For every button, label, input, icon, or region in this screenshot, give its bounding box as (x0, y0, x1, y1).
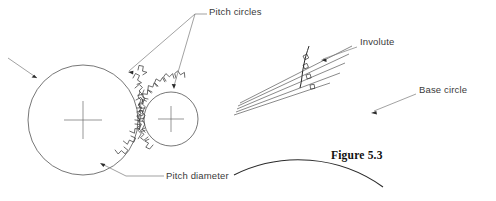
label-base-circle: Base circle (419, 84, 467, 95)
leader-pitch-circles-to-pinion (172, 14, 195, 89)
figure-caption: Figure 5.3 (331, 149, 383, 161)
leader-pitch-circles-to-gear (128, 14, 195, 75)
leader-pitch-diameter (100, 163, 164, 176)
gear-teeth-pinion (137, 71, 185, 149)
center-cross-gear (64, 101, 102, 139)
tangent-lines (234, 46, 352, 115)
involute-curve (300, 46, 309, 88)
leader-unlabeled-left (8, 58, 37, 78)
involute-construction (234, 46, 416, 187)
arrowhead-icon (172, 84, 176, 89)
leader-base-circle (371, 94, 416, 115)
center-cross-pinion (158, 106, 184, 132)
technical-drawing-canvas (0, 0, 496, 201)
arrowhead-icon (32, 75, 37, 78)
tangent-line-3 (237, 63, 345, 109)
label-pitch-diameter: Pitch diameter (166, 170, 229, 181)
perpendicular-mark-4 (310, 84, 315, 89)
figure-container: Pitch circles Pitch diameter Involute Ba… (0, 0, 496, 201)
arrowhead-icon (128, 71, 133, 75)
perpendicular-mark-3 (306, 74, 311, 79)
label-involute: Involute (360, 36, 394, 47)
meshing-gear-pair (8, 14, 207, 176)
arrowhead-icon (371, 111, 377, 115)
label-pitch-circles: Pitch circles (209, 6, 262, 17)
arrowhead-icon (100, 163, 105, 167)
leader-involute (321, 47, 357, 62)
tangent-line-2 (238, 54, 349, 106)
base-circle-arc (234, 160, 383, 187)
